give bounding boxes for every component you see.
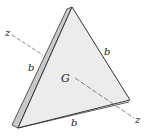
side-label-right: b: [104, 46, 110, 57]
side-label-bottom: b: [71, 117, 77, 128]
z-axis-upper: [12, 35, 43, 55]
side-label-left: b: [28, 62, 34, 73]
triangle-plate-diagram: z z b b b G: [0, 0, 146, 137]
centroid-label: G: [61, 72, 70, 85]
plate-front-face: [18, 7, 130, 128]
axis-label-z-top: z: [4, 27, 11, 38]
axis-label-z-bottom: z: [134, 114, 141, 125]
